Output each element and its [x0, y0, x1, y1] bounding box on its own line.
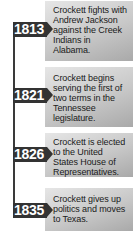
- year-badge-1826: 1826: [13, 147, 47, 162]
- event-box-1826: Crockett is elected to the United States…: [45, 133, 133, 177]
- year-label: 1835: [14, 202, 44, 218]
- event-box-1821: Crockett begins serving the first of two…: [45, 67, 133, 127]
- event-text: Crockett fights with Andrew Jackson agai…: [53, 5, 127, 55]
- year-badge-1821: 1821: [13, 88, 47, 103]
- event-text: Crockett begins serving the first of two…: [53, 73, 122, 123]
- timeline-vertical-line: [13, 22, 15, 212]
- year-label: 1821: [14, 87, 44, 103]
- year-badge-1813: 1813: [13, 22, 47, 37]
- event-text: Crockett is elected to the United States…: [53, 137, 125, 177]
- event-text: Crockett gives up politics and moves to …: [53, 194, 125, 224]
- year-label: 1813: [14, 21, 44, 37]
- year-label: 1826: [14, 146, 44, 162]
- year-badge-1835: 1835: [13, 203, 47, 218]
- event-box-1835: Crockett gives up politics and moves to …: [45, 188, 133, 231]
- event-box-1813: Crockett fights with Andrew Jackson agai…: [45, 1, 133, 61]
